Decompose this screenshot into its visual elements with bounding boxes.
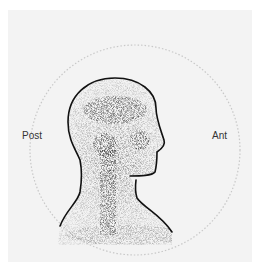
posterior-label: Post: [22, 130, 42, 141]
anterior-label: Ant: [212, 130, 227, 141]
uptake-region: [55, 75, 185, 245]
